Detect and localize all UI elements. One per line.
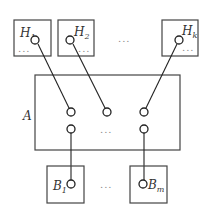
diagram-canvas: H1 ... H2 ... Hk ... ... A ... B1 Bm ... (0, 0, 210, 218)
module-h2-label: H2 (73, 25, 90, 41)
port-h1 (31, 36, 39, 44)
module-hk-label: Hk (181, 24, 197, 40)
module-h2-dots: ... (78, 43, 91, 54)
port-h2 (66, 36, 74, 44)
module-hk-dots: ... (182, 42, 195, 53)
module-diagram: H1 ... H2 ... Hk ... ... A ... B1 Bm ... (0, 0, 210, 218)
port-a-bottom-1 (67, 125, 75, 133)
port-a-bottom-m (140, 125, 148, 133)
top-ellipsis: ... (118, 33, 131, 44)
port-hk (175, 36, 183, 44)
module-a-label: A (22, 109, 32, 123)
center-ellipsis: ... (100, 124, 113, 135)
port-bm (139, 180, 147, 188)
port-b1 (67, 180, 75, 188)
wire-h1-a (38, 44, 69, 108)
module-b1-label: B1 (52, 179, 67, 195)
module-h1-dots: ... (18, 43, 31, 54)
module-bm-label: Bm (147, 178, 165, 194)
port-a-top-k (140, 108, 148, 116)
bottom-ellipsis: ... (100, 179, 113, 190)
port-a-top-2 (103, 108, 111, 116)
port-a-top-1 (67, 108, 75, 116)
